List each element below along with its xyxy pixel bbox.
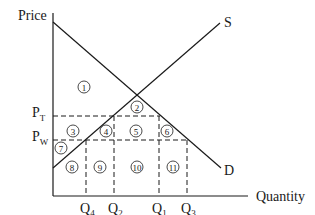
svg-text:9: 9	[98, 163, 103, 173]
quantity-label-q4: Q4	[80, 201, 95, 215]
quantity-label-q1: Q1	[152, 201, 167, 215]
diagram-canvas: Price Quantity S D PT PW Q4 Q2 Q1 Q3 1 2…	[0, 0, 315, 215]
svg-text:7: 7	[59, 144, 64, 154]
svg-text:5: 5	[134, 127, 139, 137]
quantity-label-q3: Q3	[181, 201, 196, 215]
supply-label: S	[224, 15, 232, 30]
area-1-marker: 1	[78, 81, 90, 93]
quantity-label-q2: Q2	[108, 201, 123, 215]
supply-curve	[53, 23, 220, 168]
area-9-marker: 9	[94, 161, 106, 173]
area-2-marker: 2	[131, 101, 143, 113]
svg-text:6: 6	[165, 127, 170, 137]
x-axis-label: Quantity	[256, 189, 305, 204]
svg-text:4: 4	[104, 127, 109, 137]
area-3-marker: 3	[67, 125, 79, 137]
area-11-marker: 11	[167, 161, 179, 173]
area-4-marker: 4	[100, 125, 112, 137]
svg-text:11: 11	[169, 163, 178, 173]
svg-text:1: 1	[82, 83, 87, 93]
area-6-marker: 6	[161, 125, 173, 137]
area-8-marker: 8	[66, 161, 78, 173]
area-5-marker: 5	[130, 125, 142, 137]
svg-text:3: 3	[71, 127, 76, 137]
svg-text:10: 10	[133, 163, 143, 173]
supply-demand-diagram: Price Quantity S D PT PW Q4 Q2 Q1 Q3 1 2…	[0, 0, 315, 215]
demand-label: D	[224, 163, 234, 178]
area-7-marker: 7	[55, 142, 67, 154]
price-label-pt: PT	[32, 105, 46, 123]
svg-text:8: 8	[70, 163, 75, 173]
svg-text:2: 2	[135, 103, 140, 113]
price-label-pw: PW	[32, 129, 49, 147]
y-axis-label: Price	[18, 8, 47, 23]
area-10-marker: 10	[131, 161, 143, 173]
